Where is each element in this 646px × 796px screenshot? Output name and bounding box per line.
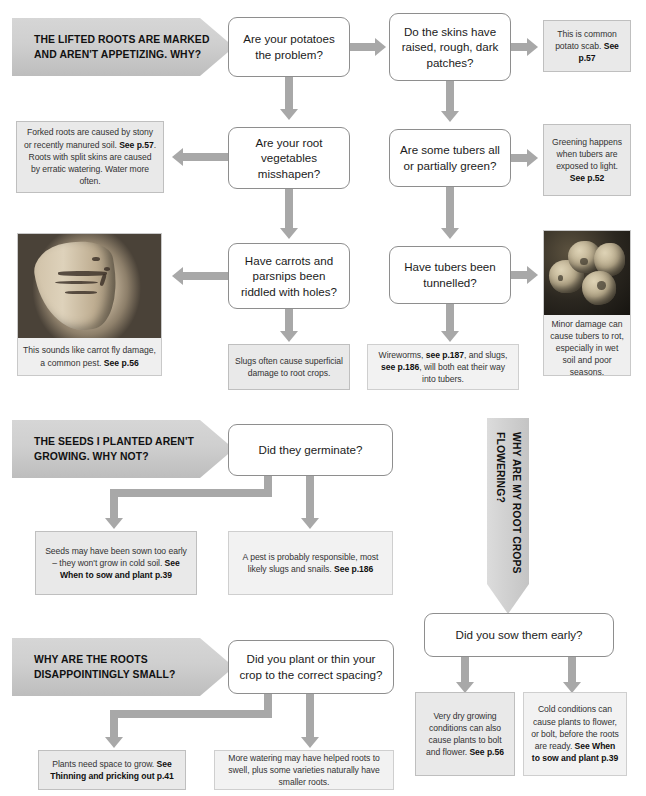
answer-forked-roots-text: Forked roots are caused by stony or rece… xyxy=(23,126,157,187)
photo-caption-tubers: Minor damage can cause tubers to rot, es… xyxy=(544,315,630,376)
answer-greening: Greening happens when tubers are exposed… xyxy=(543,124,631,196)
arrow-misshapen-to-forked-head xyxy=(172,148,183,166)
arrow-skins-to-green-shaft xyxy=(446,81,454,111)
answer-seeds-sown-early: Seeds may have been sown too early – the… xyxy=(35,531,197,595)
answer-wireworms-text: Wireworms, see p.187, and slugs, see p.1… xyxy=(374,349,512,386)
question-sow-them-early-text: Did you sow them early? xyxy=(456,627,583,643)
arrow-misshapen-to-carrots-shaft xyxy=(285,189,293,228)
photo-caption-carrot: This sounds like carrot fly damage, a co… xyxy=(18,338,161,375)
answer-cold-conditions: Cold conditions can cause plants to flow… xyxy=(523,692,627,776)
answer-pest-responsible-text: A pest is probably responsible, most lik… xyxy=(235,551,386,575)
banner-seeds-not-growing-text: THE SEEDS I PLANTED AREN'T GROWING. WHY … xyxy=(12,434,234,464)
arrow-carrots-to-photo-shaft xyxy=(183,272,228,280)
carrot-fly-damage-photo xyxy=(18,234,161,338)
banner-lifted-roots: THE LIFTED ROOTS ARE MARKED AND AREN'T A… xyxy=(12,18,234,76)
arrow-green-to-greening-head xyxy=(527,149,538,167)
arrow-tunnelled-to-photo-shaft xyxy=(511,271,527,279)
answer-wireworms: Wireworms, see p.187, and slugs, see p.1… xyxy=(367,344,519,390)
arrow-skins-to-scab-shaft xyxy=(511,43,527,51)
answer-plants-need-space-text: Plants need space to grow. See Thinning … xyxy=(45,758,179,782)
banner-root-crops-flowering-text: WHY ARE MY ROOT CROPS FLOWERING? xyxy=(492,418,523,614)
answer-plants-need-space: Plants need space to grow. See Thinning … xyxy=(38,750,186,790)
photo-block-carrot: This sounds like carrot fly damage, a co… xyxy=(17,233,162,376)
banner-root-crops-flowering: WHY ARE MY ROOT CROPS FLOWERING? xyxy=(487,418,529,614)
arrow-skins-to-scab-head xyxy=(527,38,538,56)
banner-roots-small: WHY ARE THE ROOTS DISAPPOINTINGLY SMALL? xyxy=(12,638,234,696)
arrow-potatoes-to-misshapen-head xyxy=(280,109,298,120)
question-tubers-tunnelled[interactable]: Have tubers been tunnelled? xyxy=(389,246,511,304)
answer-slugs-superficial-text: Slugs often cause superficial damage to … xyxy=(235,355,343,379)
banner-roots-small-text: WHY ARE THE ROOTS DISAPPOINTINGLY SMALL? xyxy=(12,652,234,682)
question-did-germinate[interactable]: Did they germinate? xyxy=(228,424,393,476)
answer-very-dry-text: Very dry growing conditions can also cau… xyxy=(422,710,508,759)
answer-potato-scab-text: This is common potato scab. See p.57 xyxy=(550,28,624,65)
arrow-carrots-to-slugs-shaft xyxy=(285,309,293,331)
answer-greening-text: Greening happens when tubers are exposed… xyxy=(550,136,624,185)
question-tubers-green[interactable]: Are some tubers all or partially green? xyxy=(389,129,511,187)
answer-more-watering-text: More watering may have helped roots to s… xyxy=(221,752,387,789)
photo-block-tubers: Minor damage can cause tubers to rot, es… xyxy=(543,230,631,376)
arrow-skins-to-green-head xyxy=(441,111,459,122)
arrow-germinate-left-head xyxy=(105,518,123,529)
answer-slugs-superficial: Slugs often cause superficial damage to … xyxy=(228,344,350,390)
arrow-green-to-greening-shaft xyxy=(511,154,527,162)
arrow-tunnelled-to-wireworms-shaft xyxy=(446,304,454,331)
answer-very-dry: Very dry growing conditions can also cau… xyxy=(415,692,515,776)
arrow-potatoes-to-misshapen-shaft xyxy=(285,77,293,109)
answer-pest-responsible: A pest is probably responsible, most lik… xyxy=(228,531,393,595)
banner-lifted-roots-text: THE LIFTED ROOTS ARE MARKED AND AREN'T A… xyxy=(12,32,234,62)
arrow-misshapen-to-carrots-head xyxy=(280,228,298,239)
arrow-thin-left-head xyxy=(105,737,123,748)
banner-seeds-not-growing: THE SEEDS I PLANTED AREN'T GROWING. WHY … xyxy=(12,420,234,478)
question-veg-misshapen-text: Are your root vegetables misshapen? xyxy=(235,135,343,182)
answer-cold-conditions-text: Cold conditions can cause plants to flow… xyxy=(530,703,620,764)
arrow-germinate-left-horiz xyxy=(110,489,272,497)
rotting-tubers-photo xyxy=(544,231,630,315)
question-sow-them-early[interactable]: Did you sow them early? xyxy=(424,613,614,657)
question-veg-misshapen[interactable]: Are your root vegetables misshapen? xyxy=(228,127,350,189)
arrow-misshapen-to-forked-shaft xyxy=(183,153,228,161)
arrow-sow-to-drygrowing-shaft xyxy=(461,657,469,682)
question-plant-or-thin[interactable]: Did you plant or thin your crop to the c… xyxy=(228,640,394,694)
answer-potato-scab: This is common potato scab. See p.57 xyxy=(543,20,631,72)
arrow-germinate-to-pest-head xyxy=(301,518,319,529)
arrow-carrots-to-slugs-head xyxy=(280,331,298,342)
question-skins-patches[interactable]: Do the skins have raised, rough, dark pa… xyxy=(389,13,511,81)
question-carrots-holes[interactable]: Have carrots and parsnips been riddled w… xyxy=(228,243,350,309)
arrow-potatoes-to-skins-head xyxy=(375,38,386,56)
arrow-germinate-left-vert2 xyxy=(110,489,118,518)
answer-forked-roots: Forked roots are caused by stony or rece… xyxy=(16,121,164,193)
question-skins-patches-text: Do the skins have raised, rough, dark pa… xyxy=(396,24,504,71)
arrow-tunnelled-to-photo-head xyxy=(527,266,538,284)
arrow-thin-to-watering-shaft xyxy=(306,694,314,737)
arrow-thin-to-watering-head xyxy=(301,737,319,748)
arrow-green-to-tunnelled-head xyxy=(441,228,459,239)
arrow-carrots-to-photo-head xyxy=(172,267,183,285)
question-potatoes-problem[interactable]: Are your potatoes the problem? xyxy=(228,17,350,77)
arrow-tunnelled-to-wireworms-head xyxy=(441,331,459,342)
question-tubers-green-text: Are some tubers all or partially green? xyxy=(396,142,504,173)
question-potatoes-problem-text: Are your potatoes the problem? xyxy=(235,31,343,62)
question-carrots-holes-text: Have carrots and parsnips been riddled w… xyxy=(235,253,343,300)
flowchart-page: THE LIFTED ROOTS ARE MARKED AND AREN'T A… xyxy=(0,0,646,796)
question-did-germinate-text: Did they germinate? xyxy=(259,442,363,458)
arrow-sow-to-cold-shaft xyxy=(568,657,576,682)
arrow-potatoes-to-skins-shaft xyxy=(350,43,375,51)
answer-more-watering: More watering may have helped roots to s… xyxy=(214,750,394,790)
answer-seeds-sown-early-text: Seeds may have been sown too early – the… xyxy=(42,545,190,582)
arrow-thin-left-vert2 xyxy=(110,710,118,737)
arrow-thin-left-horiz xyxy=(110,710,272,718)
arrow-germinate-to-pest-shaft xyxy=(306,476,314,518)
arrow-green-to-tunnelled-shaft xyxy=(446,187,454,228)
question-tubers-tunnelled-text: Have tubers been tunnelled? xyxy=(396,259,504,290)
question-plant-or-thin-text: Did you plant or thin your crop to the c… xyxy=(235,651,387,682)
